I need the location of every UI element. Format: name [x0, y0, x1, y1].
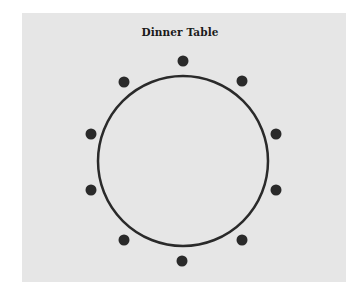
seat-dot — [177, 256, 188, 267]
seat-dot — [237, 235, 248, 246]
table-circle — [98, 76, 268, 246]
seat-dot — [178, 56, 189, 67]
seat-dot — [237, 76, 248, 87]
seat-dot — [119, 77, 130, 88]
seat-dot — [271, 185, 282, 196]
seats-group — [86, 56, 282, 267]
seat-dot — [271, 129, 282, 140]
seat-dot — [86, 185, 97, 196]
seat-dot — [119, 235, 130, 246]
seat-dot — [86, 129, 97, 140]
dinner-table-diagram — [0, 0, 360, 295]
